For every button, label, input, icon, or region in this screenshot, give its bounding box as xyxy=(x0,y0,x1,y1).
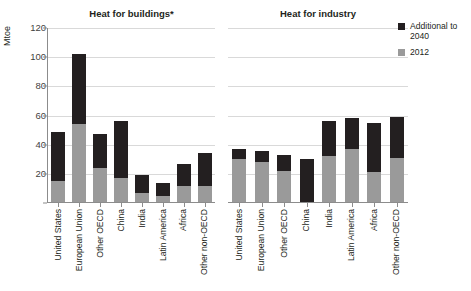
bar-segment-2012[interactable] xyxy=(177,186,191,204)
x-tick-mark xyxy=(100,203,101,207)
x-label-slot: European Union xyxy=(251,209,272,271)
stacked-bar[interactable] xyxy=(198,153,212,203)
x-tick-mark xyxy=(58,203,59,207)
bar-segment-2012[interactable] xyxy=(255,162,269,203)
x-tick xyxy=(70,203,89,207)
bar-column[interactable] xyxy=(229,28,250,203)
plot-area-buildings xyxy=(48,28,215,203)
bar-column[interactable] xyxy=(49,28,68,203)
x-axis-category-label: Other non-OECD xyxy=(200,209,209,275)
bar-segment-additional-to-2040[interactable] xyxy=(177,164,191,186)
bar-column[interactable] xyxy=(70,28,89,203)
stacked-bar[interactable] xyxy=(156,183,170,203)
bar-segment-2012[interactable] xyxy=(72,124,86,203)
bar-segment-additional-to-2040[interactable] xyxy=(232,149,246,159)
bar-column[interactable] xyxy=(91,28,110,203)
bar-segment-2012[interactable] xyxy=(51,181,65,203)
bar-segment-2012[interactable] xyxy=(322,156,336,203)
x-tick-mark xyxy=(329,203,330,207)
stacked-bar[interactable] xyxy=(390,117,404,203)
x-tick-mark xyxy=(262,203,263,207)
bar-segment-additional-to-2040[interactable] xyxy=(367,123,381,173)
stacked-bar[interactable] xyxy=(93,134,107,203)
bar-segment-additional-to-2040[interactable] xyxy=(300,159,314,203)
y-axis-unit-label: Mtoe xyxy=(2,26,12,46)
bar-column[interactable] xyxy=(195,28,214,203)
y-tick-mark xyxy=(43,28,47,29)
bar-segment-2012[interactable] xyxy=(390,158,404,203)
bar-segment-additional-to-2040[interactable] xyxy=(198,153,212,185)
stacked-bar[interactable] xyxy=(367,123,381,203)
bar-column[interactable] xyxy=(251,28,272,203)
bar-group-buildings xyxy=(48,28,215,203)
stacked-bar[interactable] xyxy=(345,118,359,203)
bar-segment-additional-to-2040[interactable] xyxy=(72,54,86,124)
bar-column[interactable] xyxy=(132,28,151,203)
x-tick xyxy=(251,203,272,207)
panel-heat-for-industry: Heat for industry United StatesEuropean … xyxy=(228,0,408,291)
bar-segment-additional-to-2040[interactable] xyxy=(345,118,359,149)
x-tick xyxy=(319,203,340,207)
x-axis-category-label: Latin America xyxy=(347,209,356,261)
bar-segment-2012[interactable] xyxy=(232,159,246,203)
plot-area-industry xyxy=(228,28,408,203)
x-axis-category-label: India xyxy=(325,209,334,228)
x-axis-category-label: Other OECD xyxy=(280,209,289,258)
bar-segment-2012[interactable] xyxy=(114,178,128,203)
bar-column[interactable] xyxy=(296,28,317,203)
x-label-slot: Africa xyxy=(364,209,385,231)
bar-column[interactable] xyxy=(341,28,362,203)
bar-segment-additional-to-2040[interactable] xyxy=(156,183,170,196)
stacked-bar[interactable] xyxy=(177,164,191,203)
bar-segment-additional-to-2040[interactable] xyxy=(277,155,291,171)
bar-segment-additional-to-2040[interactable] xyxy=(51,132,65,182)
stacked-bar[interactable] xyxy=(72,54,86,203)
x-axis-category-label: United States xyxy=(235,209,244,261)
bar-segment-2012[interactable] xyxy=(93,168,107,203)
bar-segment-additional-to-2040[interactable] xyxy=(390,117,404,158)
x-tick xyxy=(274,203,295,207)
stacked-bar[interactable] xyxy=(114,121,128,203)
x-label-slot: China xyxy=(296,209,317,231)
stacked-bar[interactable] xyxy=(51,132,65,203)
stacked-bar[interactable] xyxy=(255,151,269,203)
bar-segment-additional-to-2040[interactable] xyxy=(93,134,107,168)
bar-segment-2012[interactable] xyxy=(345,149,359,203)
legend-item-label: Additional to 2040 xyxy=(410,22,471,42)
panel-heat-for-buildings: Heat for buildings* United StatesEuropea… xyxy=(48,0,215,291)
bar-segment-2012[interactable] xyxy=(277,171,291,203)
x-label-slot: Other OECD xyxy=(274,209,295,258)
bar-column[interactable] xyxy=(274,28,295,203)
bar-segment-2012[interactable] xyxy=(367,172,381,203)
legend-item[interactable]: Additional to 2040 xyxy=(398,22,471,42)
bar-column[interactable] xyxy=(319,28,340,203)
bar-column[interactable] xyxy=(111,28,130,203)
x-tick xyxy=(386,203,407,207)
legend-item[interactable]: 2012 xyxy=(398,48,471,58)
panel-title-industry: Heat for industry xyxy=(228,8,408,19)
x-tick-mark xyxy=(163,203,164,207)
bar-segment-additional-to-2040[interactable] xyxy=(322,121,336,156)
x-label-slot: Other non-OECD xyxy=(195,209,214,275)
x-label-slot: Latin America xyxy=(153,209,172,261)
x-tick xyxy=(153,203,172,207)
y-tick-mark xyxy=(43,57,47,58)
stacked-bar[interactable] xyxy=(135,175,149,203)
bar-segment-additional-to-2040[interactable] xyxy=(255,151,269,163)
x-tickmarks-industry xyxy=(228,203,408,207)
stacked-bar[interactable] xyxy=(232,149,246,203)
stacked-bar[interactable] xyxy=(322,121,336,203)
legend-swatch-additional xyxy=(398,23,405,30)
stacked-bar[interactable] xyxy=(277,155,291,203)
bar-segment-additional-to-2040[interactable] xyxy=(114,121,128,178)
bar-segment-additional-to-2040[interactable] xyxy=(135,175,149,193)
x-axis-category-label: Africa xyxy=(179,209,188,231)
bar-column[interactable] xyxy=(153,28,172,203)
panel-title-buildings: Heat for buildings* xyxy=(48,8,215,19)
bar-column[interactable] xyxy=(174,28,193,203)
bar-segment-2012[interactable] xyxy=(198,186,212,204)
stacked-bar[interactable] xyxy=(300,159,314,203)
y-axis-tick-labels: 020406080100120 xyxy=(14,0,46,291)
x-tick xyxy=(229,203,250,207)
bar-column[interactable] xyxy=(364,28,385,203)
